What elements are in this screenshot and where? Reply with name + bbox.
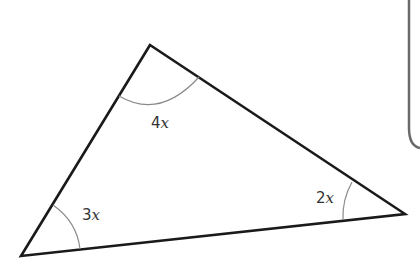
triangle xyxy=(21,45,405,256)
angle-arc-top xyxy=(119,77,199,105)
angle-label-bottom-left: 3x xyxy=(82,206,101,224)
diagram-canvas: 4x 3x 2x xyxy=(0,0,420,258)
side-box-border xyxy=(409,0,420,148)
angle-label-top: 4x xyxy=(151,114,170,132)
angle-label-right: 2x xyxy=(316,189,335,207)
angle-arc-bottom-left xyxy=(53,205,80,249)
angle-arc-right xyxy=(343,182,352,220)
